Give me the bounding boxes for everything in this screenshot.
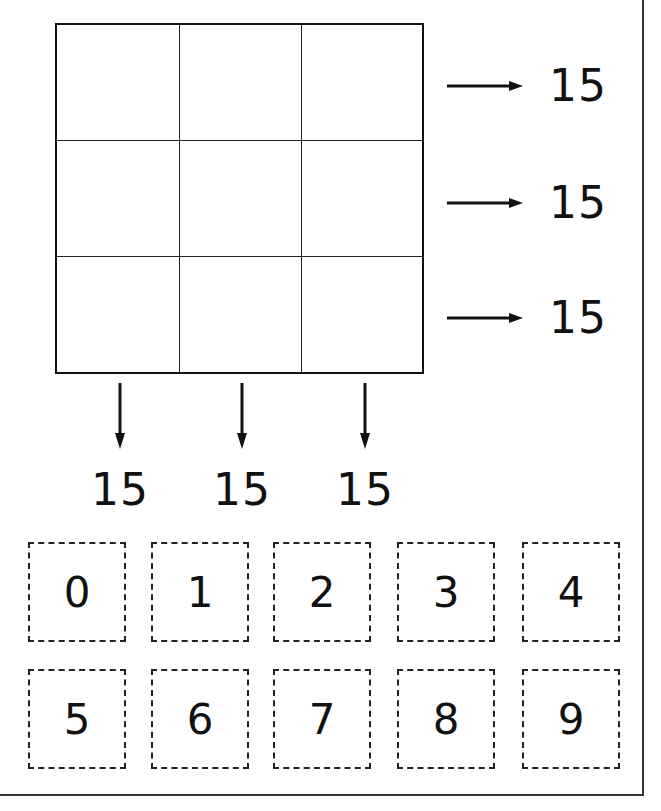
col-sum-3: 15 — [325, 468, 405, 512]
number-tile-2[interactable]: 2 — [273, 542, 371, 642]
number-tile-4[interactable]: 4 — [522, 542, 620, 642]
row-sum-value: 15 — [549, 64, 607, 108]
col-sum-1: 15 — [80, 468, 160, 512]
arrow-down-icon — [114, 383, 126, 449]
arrow-down-icon — [236, 383, 248, 449]
arrow-right-icon — [447, 80, 523, 92]
grid-cell-r2c2[interactable] — [180, 141, 302, 257]
number-tile-8[interactable]: 8 — [397, 669, 495, 769]
number-tile-0[interactable]: 0 — [28, 542, 126, 642]
arrow-right-icon — [447, 312, 523, 324]
grid-cell-r3c3[interactable] — [302, 257, 422, 372]
row-sum-value: 15 — [549, 181, 607, 225]
grid-cell-r3c1[interactable] — [57, 257, 180, 372]
grid-cell-r1c1[interactable] — [57, 25, 180, 141]
grid-cell-r3c2[interactable] — [180, 257, 302, 372]
number-tile-9[interactable]: 9 — [522, 669, 620, 769]
row-sum-value: 15 — [549, 296, 607, 340]
col-sum-2: 15 — [202, 468, 282, 512]
grid-cell-r2c1[interactable] — [57, 141, 180, 257]
arrow-down-icon — [359, 383, 371, 449]
grid-cell-r1c3[interactable] — [302, 25, 422, 141]
number-tile-1[interactable]: 1 — [151, 542, 249, 642]
arrow-right-icon — [447, 197, 523, 209]
number-tile-3[interactable]: 3 — [397, 542, 495, 642]
number-tile-5[interactable]: 5 — [28, 669, 126, 769]
magic-square-grid — [55, 23, 424, 374]
number-tile-6[interactable]: 6 — [151, 669, 249, 769]
row-sum-2: 15 — [447, 183, 607, 223]
grid-cell-r1c2[interactable] — [180, 25, 302, 141]
row-sum-1: 15 — [447, 66, 607, 106]
grid-cell-r2c3[interactable] — [302, 141, 422, 257]
row-sum-3: 15 — [447, 298, 607, 338]
number-tile-7[interactable]: 7 — [273, 669, 371, 769]
